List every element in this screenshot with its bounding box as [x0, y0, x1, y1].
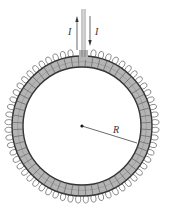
current-out-arrow [88, 16, 91, 46]
toroid-diagram: I I R [0, 0, 174, 217]
current-leads [82, 9, 85, 57]
current-out-label: I [94, 26, 99, 37]
current-in-label: I [67, 26, 72, 37]
radius-line [82, 126, 137, 143]
current-in-arrow [75, 16, 78, 50]
radius-label: R [112, 124, 119, 135]
